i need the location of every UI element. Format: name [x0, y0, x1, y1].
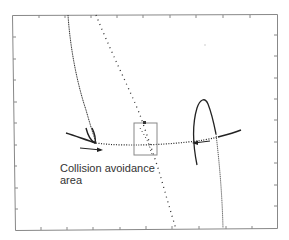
arrow-right-icon — [80, 148, 103, 153]
trajectory-left-descending — [68, 15, 96, 142]
trajectory-diagonal-dotted — [96, 15, 176, 229]
trajectory-diagram — [0, 0, 289, 240]
stray-dot — [204, 44, 205, 45]
trajectory-right-approach — [218, 130, 241, 137]
trajectory-right-descending — [216, 134, 223, 228]
trajectory-left-approach — [66, 133, 96, 143]
label-line-1: Collision avoidance — [60, 162, 155, 174]
collision-avoidance-label: Collision avoidance area — [60, 162, 155, 186]
trajectory-right-loop — [194, 100, 216, 165]
collision-avoidance-box — [134, 123, 157, 155]
right-ticks — [274, 35, 277, 206]
box-marker — [143, 121, 146, 124]
box-inner-path — [140, 128, 152, 154]
arrow-left-icon — [192, 141, 210, 146]
label-line-2: area — [60, 174, 155, 186]
